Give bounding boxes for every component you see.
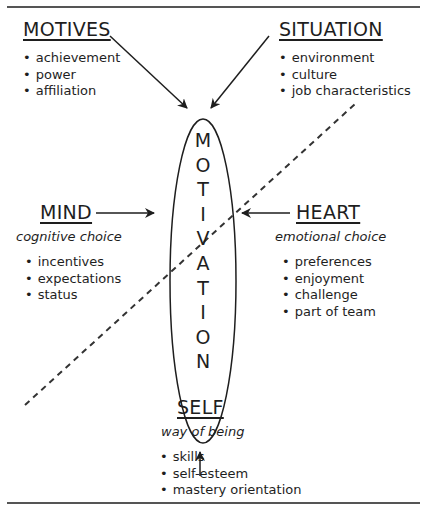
situation-block: SITUATION environment culture job charac… — [279, 18, 411, 100]
list-item: enjoyment — [282, 271, 386, 288]
letter: A — [186, 251, 220, 276]
list-item: part of team — [282, 304, 386, 321]
heart-block: HEART emotional choice preferences enjoy… — [275, 201, 386, 320]
self-list: skills self-esteem mastery orientation — [160, 449, 301, 499]
list-item: mastery orientation — [160, 482, 301, 499]
list-item: incentives — [25, 254, 122, 271]
motivation-label: M O T I V A T I O N — [186, 128, 220, 374]
letter: O — [186, 325, 220, 350]
letter: I — [186, 300, 220, 325]
list-item: affiliation — [23, 83, 120, 100]
self-subtitle: way of being — [161, 424, 301, 439]
situation-title: SITUATION — [279, 18, 411, 40]
list-item: preferences — [282, 254, 386, 271]
letter: O — [186, 153, 220, 178]
list-item: job characteristics — [279, 83, 411, 100]
list-item: power — [23, 67, 120, 84]
letter: I — [186, 202, 220, 227]
list-item: status — [25, 287, 122, 304]
list-item: expectations — [25, 271, 122, 288]
mind-block: MIND cognitive choice incentives expecta… — [16, 201, 122, 304]
heart-title: HEART — [296, 201, 386, 223]
self-block: SELF way of being skills self-esteem mas… — [160, 396, 301, 499]
mind-subtitle: cognitive choice — [16, 229, 122, 244]
letter: V — [186, 226, 220, 251]
mind-list: incentives expectations status — [25, 254, 122, 304]
heart-subtitle: emotional choice — [275, 229, 386, 244]
letter: M — [186, 128, 220, 153]
list-item: environment — [279, 50, 411, 67]
letter: N — [186, 349, 220, 374]
motives-arrow — [110, 36, 187, 108]
list-item: culture — [279, 67, 411, 84]
mind-title: MIND — [40, 201, 122, 223]
motives-list: achievement power affiliation — [23, 50, 120, 100]
motives-title: MOTIVES — [23, 18, 120, 40]
situation-list: environment culture job characteristics — [279, 50, 411, 100]
list-item: skills — [160, 449, 301, 466]
motives-block: MOTIVES achievement power affiliation — [23, 18, 120, 100]
list-item: challenge — [282, 287, 386, 304]
bottom-rule — [7, 502, 420, 504]
situation-arrow — [211, 36, 269, 108]
heart-list: preferences enjoyment challenge part of … — [282, 254, 386, 320]
letter: T — [186, 276, 220, 301]
list-item: self-esteem — [160, 466, 301, 483]
letter: T — [186, 177, 220, 202]
list-item: achievement — [23, 50, 120, 67]
self-title: SELF — [177, 396, 301, 418]
